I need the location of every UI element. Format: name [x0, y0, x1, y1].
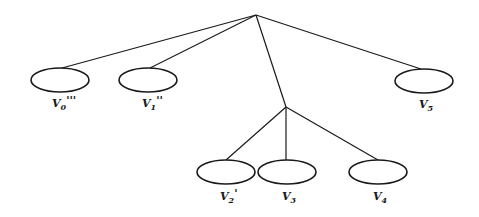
label-v2: V2' — [220, 187, 238, 205]
edge-internal-v2 — [226, 107, 286, 160]
label-v1: V1'' — [142, 94, 163, 112]
edge-root-internal — [256, 15, 286, 107]
edge-root-v0 — [62, 15, 256, 68]
node-v2 — [197, 160, 255, 184]
label-v3: V3 — [282, 190, 297, 205]
edge-root-v5 — [256, 15, 421, 69]
node-v0 — [31, 68, 89, 92]
node-v4 — [349, 160, 407, 184]
label-v5: V5 — [419, 98, 434, 113]
node-v3 — [258, 160, 316, 184]
node-v1 — [119, 68, 177, 92]
label-v0: V0''' — [52, 94, 76, 112]
edge-root-v1 — [150, 15, 256, 68]
node-v5 — [395, 69, 453, 93]
label-v4: V4 — [373, 190, 388, 205]
edge-internal-v4 — [286, 107, 378, 160]
tree-diagram: V0''' V1'' V5 V2' V3 V4 — [0, 0, 479, 217]
